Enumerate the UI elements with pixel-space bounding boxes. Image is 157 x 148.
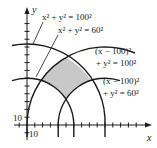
x-axis-arrow-icon [145, 123, 152, 128]
circles-diagram: y x 10 10 x² + y² = 100² x² + y² = 60² (… [0, 0, 157, 148]
shaded-region [41, 57, 91, 99]
label-origin-r60: x² + y² = 60² [58, 25, 104, 35]
x-tick-label: 10 [29, 129, 39, 139]
label-origin-r100: x² + y² = 100² [42, 12, 92, 22]
leader-line-r100 [33, 22, 43, 44]
label-100-r60-line2: + y² = 60² [103, 88, 139, 98]
x-axis-label: x [146, 132, 152, 143]
label-100-r100-line2: + y² = 100² [96, 58, 137, 68]
label-100-r100-line1: (x − 100)² [95, 46, 132, 56]
y-axis-label: y [31, 4, 37, 15]
label-100-r60-line1: (x − 100)² [103, 76, 140, 86]
y-axis-arrow-icon [25, 7, 30, 14]
y-tick-label: 10 [13, 113, 23, 123]
